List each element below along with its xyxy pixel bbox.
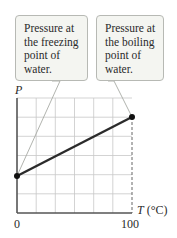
callout-text-line: Pressure at (24, 22, 87, 36)
callout-text-line: Pressure at (105, 22, 163, 36)
x-axis-label: T (°C) (137, 203, 167, 218)
left-callout-pointer (17, 81, 60, 176)
callout-text-line: the freezing (24, 36, 87, 50)
boiling-point-dot (129, 114, 135, 120)
x-tick-0: 0 (14, 217, 20, 232)
x-axis-variable: T (137, 203, 144, 217)
callout-text-line: water. (105, 63, 163, 77)
grid (17, 98, 132, 213)
callout-text-line: point of (24, 49, 87, 63)
freezing-point-callout: Pressure at the freezing point of water. (15, 15, 88, 81)
x-axis-unit: (°C) (144, 203, 168, 217)
boiling-point-callout: Pressure at the boiling point of water. (96, 15, 164, 81)
right-callout-pointer (108, 81, 132, 117)
x-tick-100: 100 (121, 217, 139, 232)
y-axis-label: P (15, 83, 22, 98)
callout-text-line: the boiling (105, 36, 163, 50)
callout-text-line: point of (105, 49, 163, 63)
freezing-point-dot (14, 173, 20, 179)
callout-text-line: water. (24, 63, 87, 77)
